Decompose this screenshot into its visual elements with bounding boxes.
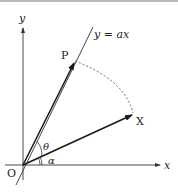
point-x-label: X	[136, 115, 144, 128]
x-axis-label: x	[164, 159, 171, 172]
vector-ox	[23, 115, 132, 165]
alpha-label: α	[48, 155, 55, 166]
line-label: y = ax	[93, 28, 130, 41]
theta-arc	[37, 141, 42, 157]
dashed-arc	[75, 61, 133, 113]
point-p-label: P	[61, 49, 69, 62]
origin-label: O	[7, 167, 16, 180]
diagram-frame: y x O y = ax P X θ α	[0, 0, 178, 192]
diagram-canvas: y x O y = ax P X θ α	[0, 0, 178, 192]
theta-label: θ	[43, 141, 49, 152]
y-axis-label: y	[18, 12, 26, 25]
alpha-arc	[38, 158, 40, 165]
